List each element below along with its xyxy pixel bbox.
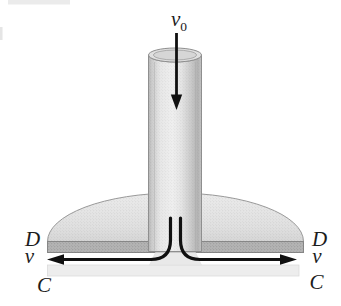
- scan-artifact-smudge: [8, 0, 70, 5]
- jet-impingement-figure: v0 D v C D v C: [0, 0, 341, 306]
- base-plate: [48, 265, 300, 276]
- label-v0-subscript: 0: [180, 19, 187, 34]
- label-C-right: C: [309, 270, 324, 294]
- pipe-opening: [154, 50, 197, 60]
- label-v-left: v: [25, 244, 35, 268]
- scan-artifact-tick: [0, 27, 3, 40]
- label-C-left: C: [37, 273, 52, 297]
- label-v-right: v: [312, 244, 322, 268]
- pipe-texture: [149, 55, 202, 252]
- supply-pipe: [149, 48, 202, 252]
